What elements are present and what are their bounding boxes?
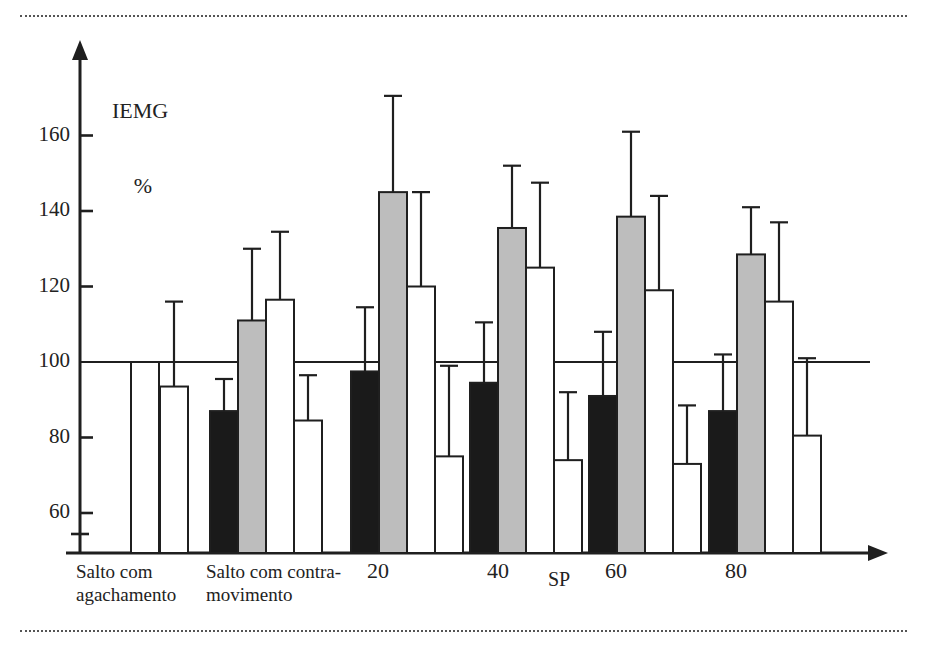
bar-item <box>210 379 238 553</box>
y-axis-arrow-icon <box>72 40 88 60</box>
bar-item <box>645 196 673 553</box>
y-tick-label: 60 <box>22 499 70 524</box>
y-tick-label: 140 <box>22 197 70 222</box>
bar-item <box>589 332 617 553</box>
bars-group <box>131 96 821 553</box>
y-tick-label: 160 <box>22 122 70 147</box>
bar-black <box>351 371 379 553</box>
bar-white-primary <box>765 302 793 553</box>
bar-gray <box>737 254 765 553</box>
x-tick-label-group-6: 80 <box>725 558 747 584</box>
bar-item <box>131 362 159 553</box>
bar-white-primary <box>526 268 554 553</box>
x-tick-label-line2: movimento <box>206 583 341 606</box>
y-axis-title-line1: IEMG <box>112 98 174 123</box>
bar-black <box>470 383 498 553</box>
bar-item <box>673 405 701 553</box>
bar-white-secondary <box>160 387 188 553</box>
bar-item <box>737 207 765 553</box>
x-tick-label-line2: agachamento <box>76 583 176 606</box>
x-tick-label-line1: Salto com <box>76 560 176 583</box>
bar-item <box>765 222 793 553</box>
figure-container: IEMG % 6080100120140160 Salto comagacham… <box>0 0 927 649</box>
y-axis-title-line2: % <box>112 173 174 198</box>
bar-item <box>160 302 188 553</box>
x-axis-title: SP <box>548 568 570 591</box>
bar-white-primary <box>645 290 673 553</box>
bar-black <box>210 411 238 553</box>
bar-white-primary <box>407 287 435 554</box>
bar-item <box>266 232 294 553</box>
bar-item <box>351 307 379 553</box>
y-tick-label: 120 <box>22 273 70 298</box>
bar-item <box>470 322 498 553</box>
x-tick-label-line1: 40 <box>487 558 509 584</box>
x-tick-label-line1: Salto com contra- <box>206 560 341 583</box>
y-tick-label: 100 <box>22 348 70 373</box>
bar-black <box>709 411 737 553</box>
bar-item <box>709 354 737 553</box>
bar-gray <box>498 228 526 553</box>
x-tick-label-line1: 60 <box>605 558 627 584</box>
bar-white-secondary <box>793 436 821 553</box>
bar-item <box>379 96 407 553</box>
x-tick-label-group-1: Salto comagachamento <box>76 560 176 606</box>
bar-item <box>407 192 435 553</box>
bar-item <box>498 166 526 553</box>
x-tick-label-line1: 80 <box>725 558 747 584</box>
bar-white-secondary <box>294 421 322 553</box>
x-tick-label-group-2: Salto com contra-movimento <box>206 560 341 606</box>
bar-item <box>435 366 463 553</box>
y-axis-title: IEMG % <box>112 48 174 248</box>
bar-item <box>238 249 266 553</box>
bar-item <box>294 375 322 553</box>
bar-white-secondary <box>554 460 582 553</box>
x-axis-arrow-icon <box>868 545 888 561</box>
bar-gray <box>617 217 645 553</box>
bar-black <box>589 396 617 553</box>
bar-gray <box>238 320 266 553</box>
x-tick-label-group-3: 20 <box>367 558 389 584</box>
bar-item <box>526 183 554 553</box>
x-tick-label-group-5: 60 <box>605 558 627 584</box>
bar-item <box>554 392 582 553</box>
bar-white-primary <box>266 300 294 553</box>
bar-gray <box>379 192 407 553</box>
bar-white-primary <box>131 362 159 553</box>
bar-white-secondary <box>435 456 463 553</box>
bar-white-secondary <box>673 464 701 553</box>
bar-item <box>793 358 821 553</box>
y-tick-label: 80 <box>22 424 70 449</box>
bar-item <box>617 132 645 553</box>
x-tick-label-group-4: 40 <box>487 558 509 584</box>
x-tick-label-line1: 20 <box>367 558 389 584</box>
